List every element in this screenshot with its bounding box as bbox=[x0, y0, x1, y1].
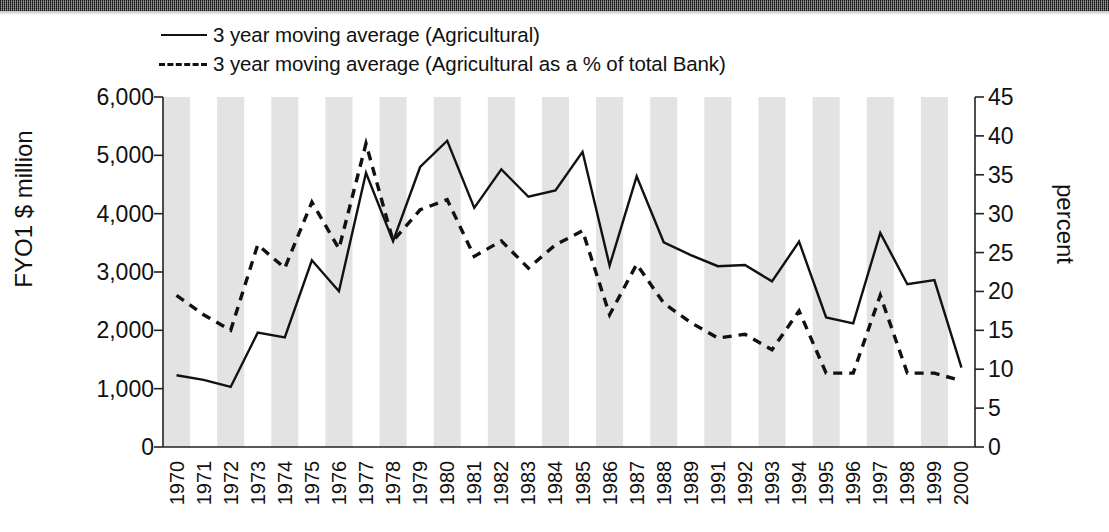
x-axis-tick-text: 2000 bbox=[950, 461, 973, 506]
x-axis-tick-label: 1988 bbox=[654, 447, 674, 523]
x-axis-tick-label: 1994 bbox=[789, 447, 809, 523]
x-axis-tick-text: 1998 bbox=[896, 461, 919, 506]
x-axis-tick-label: 1980 bbox=[437, 447, 457, 523]
year-band bbox=[704, 97, 731, 447]
x-axis-tick-label: 1996 bbox=[843, 447, 863, 523]
x-axis-tick-label: 1991 bbox=[708, 447, 728, 523]
y-axis-left-title: FYO1 $ million bbox=[10, 79, 38, 339]
year-band bbox=[813, 97, 840, 447]
y-axis-left-tick-label: 3,000 bbox=[54, 259, 154, 286]
x-axis-tick-label: 1972 bbox=[221, 447, 241, 523]
x-axis-tick-text: 1975 bbox=[300, 461, 323, 506]
x-axis-tick-label: 1999 bbox=[924, 447, 944, 523]
year-band bbox=[758, 97, 785, 447]
y-axis-right-tick-label: 5 bbox=[988, 395, 1044, 422]
x-axis-tick-text: 1985 bbox=[571, 461, 594, 506]
plot-region bbox=[163, 97, 975, 447]
x-axis-tick-text: 1996 bbox=[842, 461, 865, 506]
x-axis-tick-label: 1977 bbox=[356, 447, 376, 523]
x-axis-tick-text: 1994 bbox=[788, 461, 811, 506]
x-axis-tick-label: 1998 bbox=[897, 447, 917, 523]
x-axis-tick-label: 1997 bbox=[870, 447, 890, 523]
x-axis-tick-label: 1995 bbox=[816, 447, 836, 523]
x-axis-tick-text: 1979 bbox=[409, 461, 432, 506]
year-band bbox=[650, 97, 677, 447]
x-axis-tick-text: 1984 bbox=[544, 461, 567, 506]
year-band bbox=[921, 97, 948, 447]
y-axis-left-tick-label: 1,000 bbox=[54, 375, 154, 402]
x-axis-tick-label: 1976 bbox=[329, 447, 349, 523]
y-axis-left-tick-label: 4,000 bbox=[54, 200, 154, 227]
x-axis-tick-label: 1973 bbox=[248, 447, 268, 523]
x-axis-tick-text: 1970 bbox=[165, 461, 188, 506]
x-axis-tick-text: 1973 bbox=[246, 461, 269, 506]
x-axis-tick-label: 1974 bbox=[275, 447, 295, 523]
y-axis-right-tick-label: 15 bbox=[988, 317, 1044, 344]
y-axis-right-tick-label: 40 bbox=[988, 122, 1044, 149]
x-axis-tick-label: 1989 bbox=[681, 447, 701, 523]
y-axis-right-tick-label: 25 bbox=[988, 239, 1044, 266]
y-axis-right-tick-label: 45 bbox=[988, 84, 1044, 111]
x-axis-tick-label: 1986 bbox=[600, 447, 620, 523]
x-axis-tick-text: 1983 bbox=[517, 461, 540, 506]
x-axis-tick-label: 1982 bbox=[491, 447, 511, 523]
year-band bbox=[488, 97, 515, 447]
plot-svg bbox=[163, 97, 975, 447]
year-band bbox=[542, 97, 569, 447]
year-band bbox=[867, 97, 894, 447]
x-axis-tick-label: 1979 bbox=[410, 447, 430, 523]
y-axis-left-tick-label: 6,000 bbox=[54, 84, 154, 111]
x-axis-tick-label: 1970 bbox=[167, 447, 187, 523]
y-axis-right-title: percent bbox=[1051, 144, 1079, 304]
year-band bbox=[596, 97, 623, 447]
x-axis-tick-label: 1978 bbox=[383, 447, 403, 523]
y-axis-left-tick-label: 5,000 bbox=[54, 142, 154, 169]
x-axis-tick-text: 1987 bbox=[625, 461, 648, 506]
x-axis-tick-label: 1993 bbox=[762, 447, 782, 523]
y-axis-right-tick-label: 20 bbox=[988, 278, 1044, 305]
x-axis-tick-label: 1985 bbox=[573, 447, 593, 523]
y-axis-right-tick-label: 30 bbox=[988, 200, 1044, 227]
x-axis-tick-text: 1974 bbox=[273, 461, 296, 506]
x-axis-tick-text: 1971 bbox=[192, 461, 215, 506]
x-axis-tick-label: 1981 bbox=[464, 447, 484, 523]
chart-page: 3 year moving average (Agricultural) 3 y… bbox=[0, 0, 1109, 532]
y-axis-left-ticks: 01,0002,0003,0004,0005,0006,000 bbox=[36, 97, 154, 447]
x-axis-tick-text: 1976 bbox=[327, 461, 350, 506]
y-axis-left-tick-label: 2,000 bbox=[54, 317, 154, 344]
x-axis-tick-text: 1982 bbox=[490, 461, 513, 506]
x-axis-tick-label: 1971 bbox=[194, 447, 214, 523]
x-axis-tick-text: 1988 bbox=[652, 461, 675, 506]
x-axis-tick-label: 1975 bbox=[302, 447, 322, 523]
x-axis-tick-labels: 1970197119721973197419751976197719781979… bbox=[163, 447, 975, 527]
x-axis-tick-text: 1977 bbox=[355, 461, 378, 506]
x-axis-tick-label: 1984 bbox=[545, 447, 565, 523]
y-axis-left-tick-label: 0 bbox=[54, 434, 154, 461]
x-axis-tick-label: 1992 bbox=[735, 447, 755, 523]
x-axis-tick-text: 1980 bbox=[436, 461, 459, 506]
y-axis-right-ticks: 051015202530354045 bbox=[988, 97, 1048, 447]
x-axis-tick-label: 1983 bbox=[518, 447, 538, 523]
y-axis-right-tick-label: 35 bbox=[988, 161, 1044, 188]
x-axis-tick-text: 1972 bbox=[219, 461, 242, 506]
x-axis-tick-text: 1978 bbox=[382, 461, 405, 506]
year-band bbox=[271, 97, 298, 447]
x-axis-tick-text: 1981 bbox=[463, 461, 486, 506]
x-axis-tick-text: 1997 bbox=[869, 461, 892, 506]
year-band bbox=[163, 97, 190, 447]
x-axis-tick-text: 1992 bbox=[733, 461, 756, 506]
x-axis-tick-label: 2000 bbox=[951, 447, 971, 523]
year-band bbox=[325, 97, 352, 447]
year-band bbox=[217, 97, 244, 447]
x-axis-tick-text: 1991 bbox=[706, 461, 729, 506]
y-axis-right-tick-label: 0 bbox=[988, 434, 1044, 461]
x-axis-tick-text: 1995 bbox=[815, 461, 838, 506]
year-band bbox=[380, 97, 407, 447]
y-axis-right-tick-label: 10 bbox=[988, 356, 1044, 383]
x-axis-tick-text: 1999 bbox=[923, 461, 946, 506]
x-axis-tick-label: 1987 bbox=[627, 447, 647, 523]
alternating-bands bbox=[163, 97, 948, 447]
x-axis-tick-text: 1989 bbox=[679, 461, 702, 506]
chart-area: 01,0002,0003,0004,0005,0006,000 05101520… bbox=[0, 0, 1109, 532]
x-axis-tick-text: 1986 bbox=[598, 461, 621, 506]
